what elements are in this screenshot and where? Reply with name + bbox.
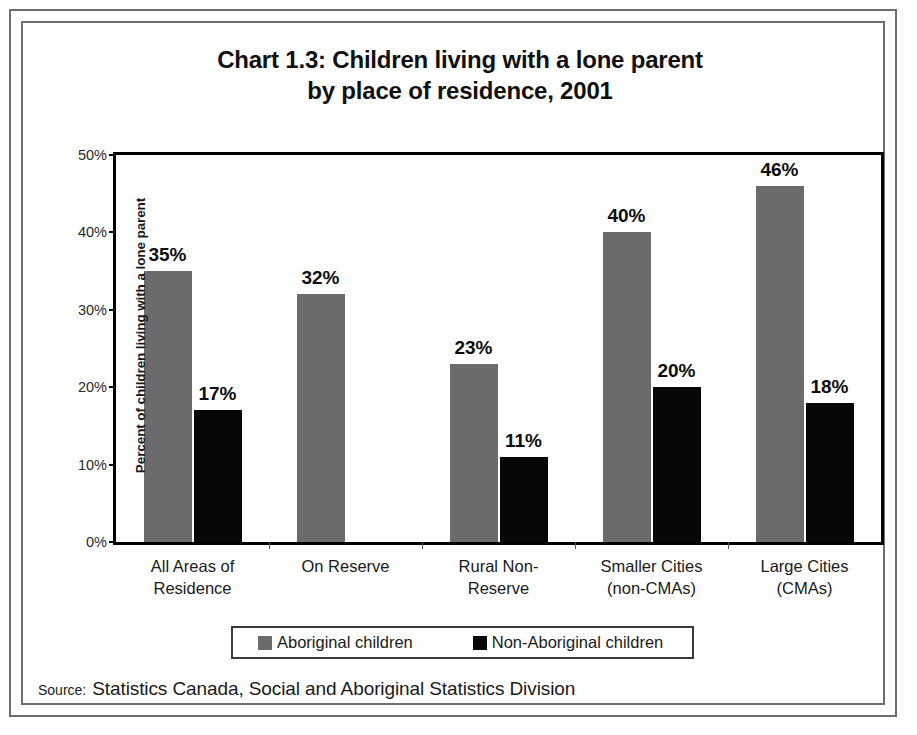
legend-label-non-aboriginal: Non-Aboriginal children (492, 633, 664, 652)
bar-non-aboriginal (194, 410, 242, 542)
bar-aboriginal (297, 294, 345, 542)
x-axis-tick-mark (728, 542, 729, 549)
y-axis-tick-mark (109, 541, 116, 543)
y-axis-tick-mark (109, 154, 116, 156)
bar-value-label: 17% (198, 383, 236, 405)
y-axis-tick-mark (109, 464, 116, 466)
legend-swatch-non-aboriginal (473, 636, 487, 650)
y-axis-tick-label: 20% (47, 379, 107, 395)
plot-inner: 0%10%20%30%40%50%All Areas ofResidence35… (116, 155, 881, 542)
x-axis-tick-mark (422, 542, 423, 549)
x-axis-category-line: Rural Non- (459, 556, 539, 578)
bar-value-label: 32% (301, 267, 339, 289)
x-axis-category-label: All Areas ofResidence (151, 556, 234, 600)
bar-aboriginal (756, 186, 804, 542)
x-axis-category-line: Reserve (459, 578, 539, 600)
y-axis-tick-mark (109, 309, 116, 311)
x-axis-category-label: Rural Non-Reserve (459, 556, 539, 600)
x-axis-category-label: Large Cities(CMAs) (760, 556, 848, 600)
legend-entry-aboriginal: Aboriginal children (258, 633, 413, 652)
x-axis-category-line: Residence (151, 578, 234, 600)
chart-legend: Aboriginal children Non-Aboriginal child… (231, 626, 694, 659)
x-axis-category-label: On Reserve (301, 556, 389, 578)
bar-non-aboriginal (500, 457, 548, 542)
bar-aboriginal (603, 232, 651, 542)
x-axis-category-line: Smaller Cities (601, 556, 703, 578)
x-axis-category-line: Large Cities (760, 556, 848, 578)
bar-value-label: 18% (810, 376, 848, 398)
y-axis-tick-label: 0% (47, 534, 107, 550)
bar-non-aboriginal (653, 387, 701, 542)
x-axis-category-line: (CMAs) (760, 578, 848, 600)
bar-value-label: 11% (505, 430, 542, 452)
x-axis-tick-mark (575, 542, 576, 549)
bar-value-label: 40% (607, 205, 645, 227)
y-axis-tick-label: 30% (47, 302, 107, 318)
legend-swatch-aboriginal (258, 636, 272, 650)
chart-title: Chart 1.3: Children living with a lone p… (120, 44, 800, 106)
x-axis-category-label: Smaller Cities(non-CMAs) (601, 556, 703, 600)
y-axis-tick-mark (109, 386, 116, 388)
legend-label-aboriginal: Aboriginal children (277, 633, 413, 652)
y-axis-title: Percent of children living with a lone p… (133, 136, 148, 536)
bar-aboriginal (450, 364, 498, 542)
bar-value-label: 23% (454, 337, 492, 359)
bar-value-label: 46% (760, 159, 798, 181)
source-text: Statistics Canada, Social and Aboriginal… (92, 678, 575, 700)
y-axis-tick-label: 40% (47, 224, 107, 240)
y-axis-tick-label: 50% (47, 147, 107, 163)
bar-aboriginal (144, 271, 192, 542)
x-axis-category-line: On Reserve (301, 556, 389, 578)
bar-value-label: 35% (148, 244, 186, 266)
chart-figure: Chart 1.3: Children living with a lone p… (0, 0, 917, 735)
y-axis-tick-label: 10% (47, 457, 107, 473)
x-axis-category-line: (non-CMAs) (601, 578, 703, 600)
plot-area: 0%10%20%30%40%50%All Areas ofResidence35… (113, 152, 884, 545)
bar-value-label: 20% (657, 360, 695, 382)
x-axis-category-line: All Areas of (151, 556, 234, 578)
source-label: Source: (38, 682, 86, 698)
chart-title-line-2: by place of residence, 2001 (120, 75, 800, 106)
x-axis-tick-mark (269, 542, 270, 549)
chart-title-line-1: Chart 1.3: Children living with a lone p… (120, 44, 800, 75)
legend-entry-non-aboriginal: Non-Aboriginal children (473, 633, 664, 652)
y-axis-tick-mark (109, 231, 116, 233)
source-note: Source: Statistics Canada, Social and Ab… (38, 678, 575, 700)
bar-non-aboriginal (806, 403, 854, 542)
